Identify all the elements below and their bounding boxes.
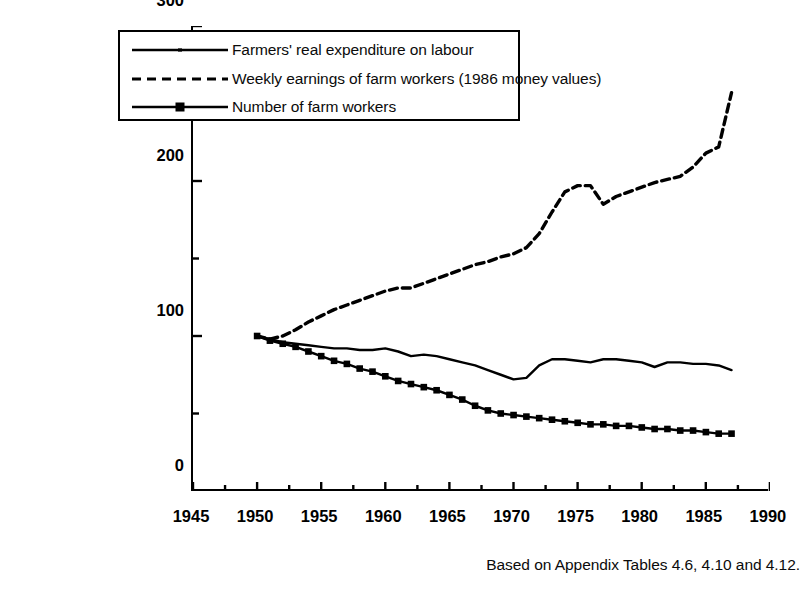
data-point-marker xyxy=(472,402,479,409)
data-point-marker xyxy=(267,337,274,344)
legend-key-square-marker-line-icon xyxy=(128,96,232,118)
legend-label: Number of farm workers xyxy=(232,98,396,116)
x-tick-label: 1960 xyxy=(354,508,412,525)
legend-item-number-of-farm-workers: Number of farm workers xyxy=(120,92,518,122)
y-tick-label: 0 xyxy=(124,457,184,474)
data-point-marker xyxy=(331,358,338,365)
data-point-marker xyxy=(279,340,286,347)
data-point-marker xyxy=(613,423,620,430)
x-tick-label: 1990 xyxy=(739,508,797,525)
data-series-layer xyxy=(254,93,735,437)
data-point-marker xyxy=(690,427,697,434)
x-axis-ticks xyxy=(193,482,770,491)
data-point-marker xyxy=(651,426,658,433)
data-point-marker xyxy=(562,418,569,425)
data-point-marker xyxy=(677,427,684,434)
legend-label: Farmers' real expenditure on labour xyxy=(232,41,474,59)
x-tick-label: 1975 xyxy=(547,508,605,525)
y-tick-label: 100 xyxy=(124,302,184,319)
data-point-marker xyxy=(626,423,633,430)
x-tick-label: 1970 xyxy=(483,508,541,525)
data-point-marker xyxy=(292,344,299,351)
legend-label: Weekly earnings of farm workers (1986 mo… xyxy=(232,70,601,88)
data-point-marker xyxy=(446,392,453,399)
data-point-marker xyxy=(459,396,466,403)
data-point-marker xyxy=(318,353,325,360)
data-point-marker xyxy=(344,361,351,368)
data-point-marker xyxy=(421,384,428,391)
x-tick-label: 1950 xyxy=(226,508,284,525)
x-tick-label: 1945 xyxy=(162,508,220,525)
data-point-marker xyxy=(574,420,581,427)
data-point-marker xyxy=(382,373,389,380)
data-point-marker xyxy=(254,333,261,340)
data-point-marker xyxy=(638,424,645,431)
figure-title-fragment xyxy=(8,0,568,7)
data-point-marker xyxy=(587,421,594,428)
y-tick-label: 300 xyxy=(124,0,184,9)
chart-figure: Index (1950=100) 300 200 100 0 xyxy=(0,0,809,594)
source-footnote: Based on Appendix Tables 4.6, 4.10 and 4… xyxy=(486,556,800,574)
series-line-1 xyxy=(257,93,731,339)
legend-key-dashed-line-icon xyxy=(128,68,232,90)
x-axis-tick-labels: 1945 1950 1955 1960 1965 1970 1975 1980 … xyxy=(191,508,768,530)
legend-key-solid-line-icon xyxy=(128,39,232,61)
legend-item-farmers-expenditure: Farmers' real expenditure on labour xyxy=(120,35,518,65)
chart-legend: Farmers' real expenditure on labour Week… xyxy=(118,30,520,121)
data-point-marker xyxy=(485,407,492,414)
data-point-marker xyxy=(510,412,517,419)
data-point-marker xyxy=(703,429,710,436)
data-point-marker xyxy=(549,416,556,423)
data-point-marker xyxy=(664,426,671,433)
data-point-marker xyxy=(536,415,543,422)
data-point-marker xyxy=(408,381,415,388)
data-point-marker xyxy=(600,421,607,428)
data-point-marker xyxy=(369,368,376,375)
x-tick-label: 1965 xyxy=(418,508,476,525)
data-point-marker xyxy=(305,348,312,355)
legend-item-weekly-earnings: Weekly earnings of farm workers (1986 mo… xyxy=(120,64,518,94)
data-point-marker xyxy=(356,365,363,372)
data-point-marker xyxy=(523,413,530,420)
data-point-marker xyxy=(728,430,735,437)
data-point-marker xyxy=(715,430,722,437)
y-tick-label: 200 xyxy=(124,147,184,164)
data-point-marker xyxy=(395,378,402,385)
series-line-2 xyxy=(257,336,731,434)
data-point-marker xyxy=(433,387,440,394)
x-tick-label: 1980 xyxy=(611,508,669,525)
x-tick-label: 1985 xyxy=(675,508,733,525)
x-tick-label: 1955 xyxy=(290,508,348,525)
data-point-marker xyxy=(497,410,504,417)
